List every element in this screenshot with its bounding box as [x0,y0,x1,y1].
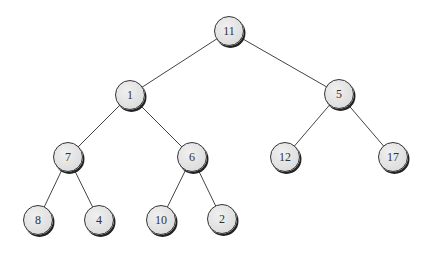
tree-node-5: 5 [324,79,354,109]
tree-node-label: 4 [96,213,102,228]
tree-node-11: 11 [214,16,244,46]
tree-node-10: 10 [146,205,176,235]
tree-node-label: 7 [65,150,71,165]
tree-node-label: 12 [279,150,291,165]
tree-node-label: 1 [127,88,133,103]
tree-node-label: 5 [336,87,342,102]
tree-node-label: 17 [387,150,399,165]
tree-node-7: 7 [53,142,83,172]
tree-node-label: 10 [155,213,167,228]
tree-node-label: 8 [35,213,41,228]
tree-node-12: 12 [270,142,300,172]
tree-node-label: 6 [189,150,195,165]
tree-node-label: 2 [219,212,225,227]
tree-node-label: 11 [223,24,235,39]
tree-edge [130,31,229,95]
tree-node-8: 8 [23,205,53,235]
tree-diagram: 111576121784102 [0,0,430,255]
tree-node-2: 2 [207,204,237,234]
tree-node-6: 6 [177,142,207,172]
tree-node-4: 4 [84,205,114,235]
tree-edge [229,31,339,94]
tree-node-1: 1 [115,80,145,110]
tree-node-17: 17 [378,142,408,172]
